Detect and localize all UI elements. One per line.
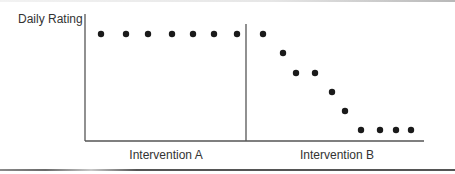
data-point	[377, 127, 383, 133]
chart-figure: Daily Rating Intervention A Intervention…	[0, 0, 455, 174]
data-point	[408, 127, 414, 133]
data-point	[293, 70, 299, 76]
data-point	[358, 127, 364, 133]
bottom-border-rule	[0, 169, 455, 171]
data-point	[260, 31, 266, 37]
data-point	[98, 31, 104, 37]
data-point	[393, 127, 399, 133]
data-point	[190, 31, 196, 37]
data-point	[312, 70, 318, 76]
data-point	[145, 31, 151, 37]
data-point	[329, 89, 335, 95]
data-point	[342, 108, 348, 114]
phase-b-label: Intervention B	[300, 148, 374, 162]
data-point	[234, 31, 240, 37]
plot-area	[0, 0, 455, 174]
data-point	[280, 50, 286, 56]
data-point	[169, 31, 175, 37]
data-points	[98, 31, 414, 133]
data-point	[123, 31, 129, 37]
phase-a-label: Intervention A	[129, 148, 202, 162]
data-point	[211, 31, 217, 37]
